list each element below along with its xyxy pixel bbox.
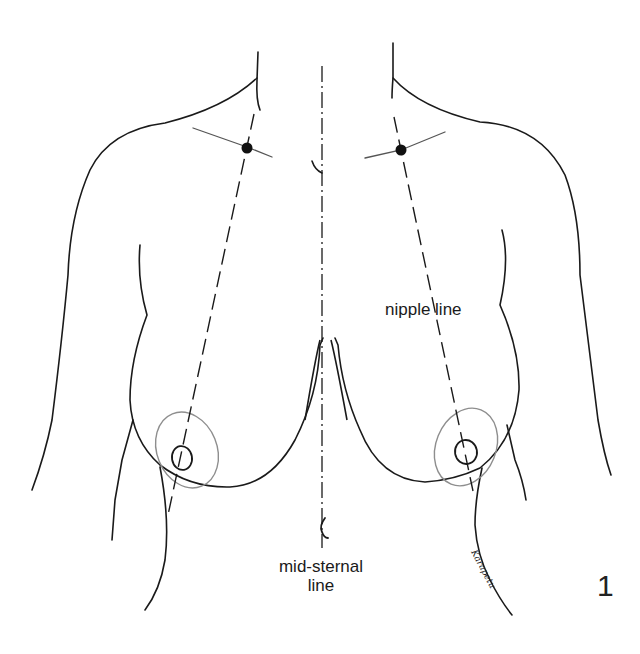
sternal-notch (312, 161, 322, 173)
right-axilla-outline (335, 230, 519, 482)
neck-right-outline (392, 43, 393, 98)
left-nipple-line (168, 114, 254, 515)
chest-line-drawing (0, 0, 640, 654)
right-shoulder-arm-outline (393, 78, 611, 475)
nipple-line-label: nipple line (385, 300, 462, 319)
left-midclavicular-point (242, 143, 253, 154)
mid-sternal-line-label: mid-sternal line (266, 557, 376, 595)
left-clavicle (193, 128, 272, 157)
neck-left-outline (257, 52, 260, 110)
cleavage-left (305, 340, 320, 420)
left-areola (145, 403, 230, 498)
right-midclavicular-point (396, 145, 407, 156)
mid-sternal-line-label-1: mid-sternal (266, 557, 376, 576)
right-clavicle (365, 132, 445, 158)
mid-sternal-line-label-2: line (266, 576, 376, 595)
right-flank-outline (507, 425, 526, 500)
left-axilla-outline (130, 245, 323, 487)
left-shoulder-arm-outline (32, 78, 257, 490)
left-flank-outline (112, 420, 133, 540)
left-nipple (170, 444, 194, 471)
figure-number: 1 (597, 570, 614, 602)
left-waist-outline (145, 467, 167, 610)
right-nipple (453, 438, 479, 465)
diagram-canvas: nipple line mid-sternal line Karapetu 1 (0, 0, 640, 654)
right-waist-outline (475, 468, 512, 615)
